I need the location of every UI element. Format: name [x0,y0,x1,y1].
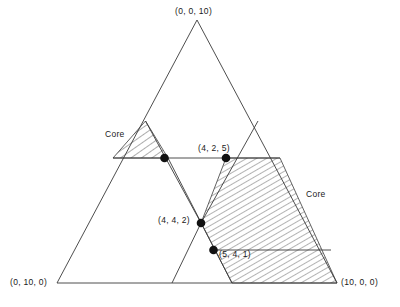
corner-label-bottom-right: (10, 0, 0) [341,278,378,287]
inverted-left-edge [146,121,202,223]
point-marker-4-4-2 [197,219,206,228]
corner-label-bottom-left: (0, 10, 0) [10,278,47,287]
point-label-5-4-1: (5, 4, 1) [219,250,251,259]
point-marker-4-2-5 [222,154,231,163]
core-base-left-diagonal [172,223,201,283]
right-core-region [201,158,337,283]
region-label-right-core: Core [306,190,326,199]
ternary-diagram-canvas [0,0,400,307]
point-marker-unlabeled [160,154,169,163]
region-label-left-core: Core [105,130,125,139]
point-marker-5-4-1 [209,246,218,255]
point-label-4-2-5: (4, 2, 5) [198,144,230,153]
corner-label-top: (0, 0, 10) [175,7,212,16]
ternary-diagram-figure: (0, 0, 10) (0, 10, 0) (10, 0, 0) (4, 2, … [0,0,400,307]
point-label-4-4-2: (4, 4, 2) [158,216,190,225]
